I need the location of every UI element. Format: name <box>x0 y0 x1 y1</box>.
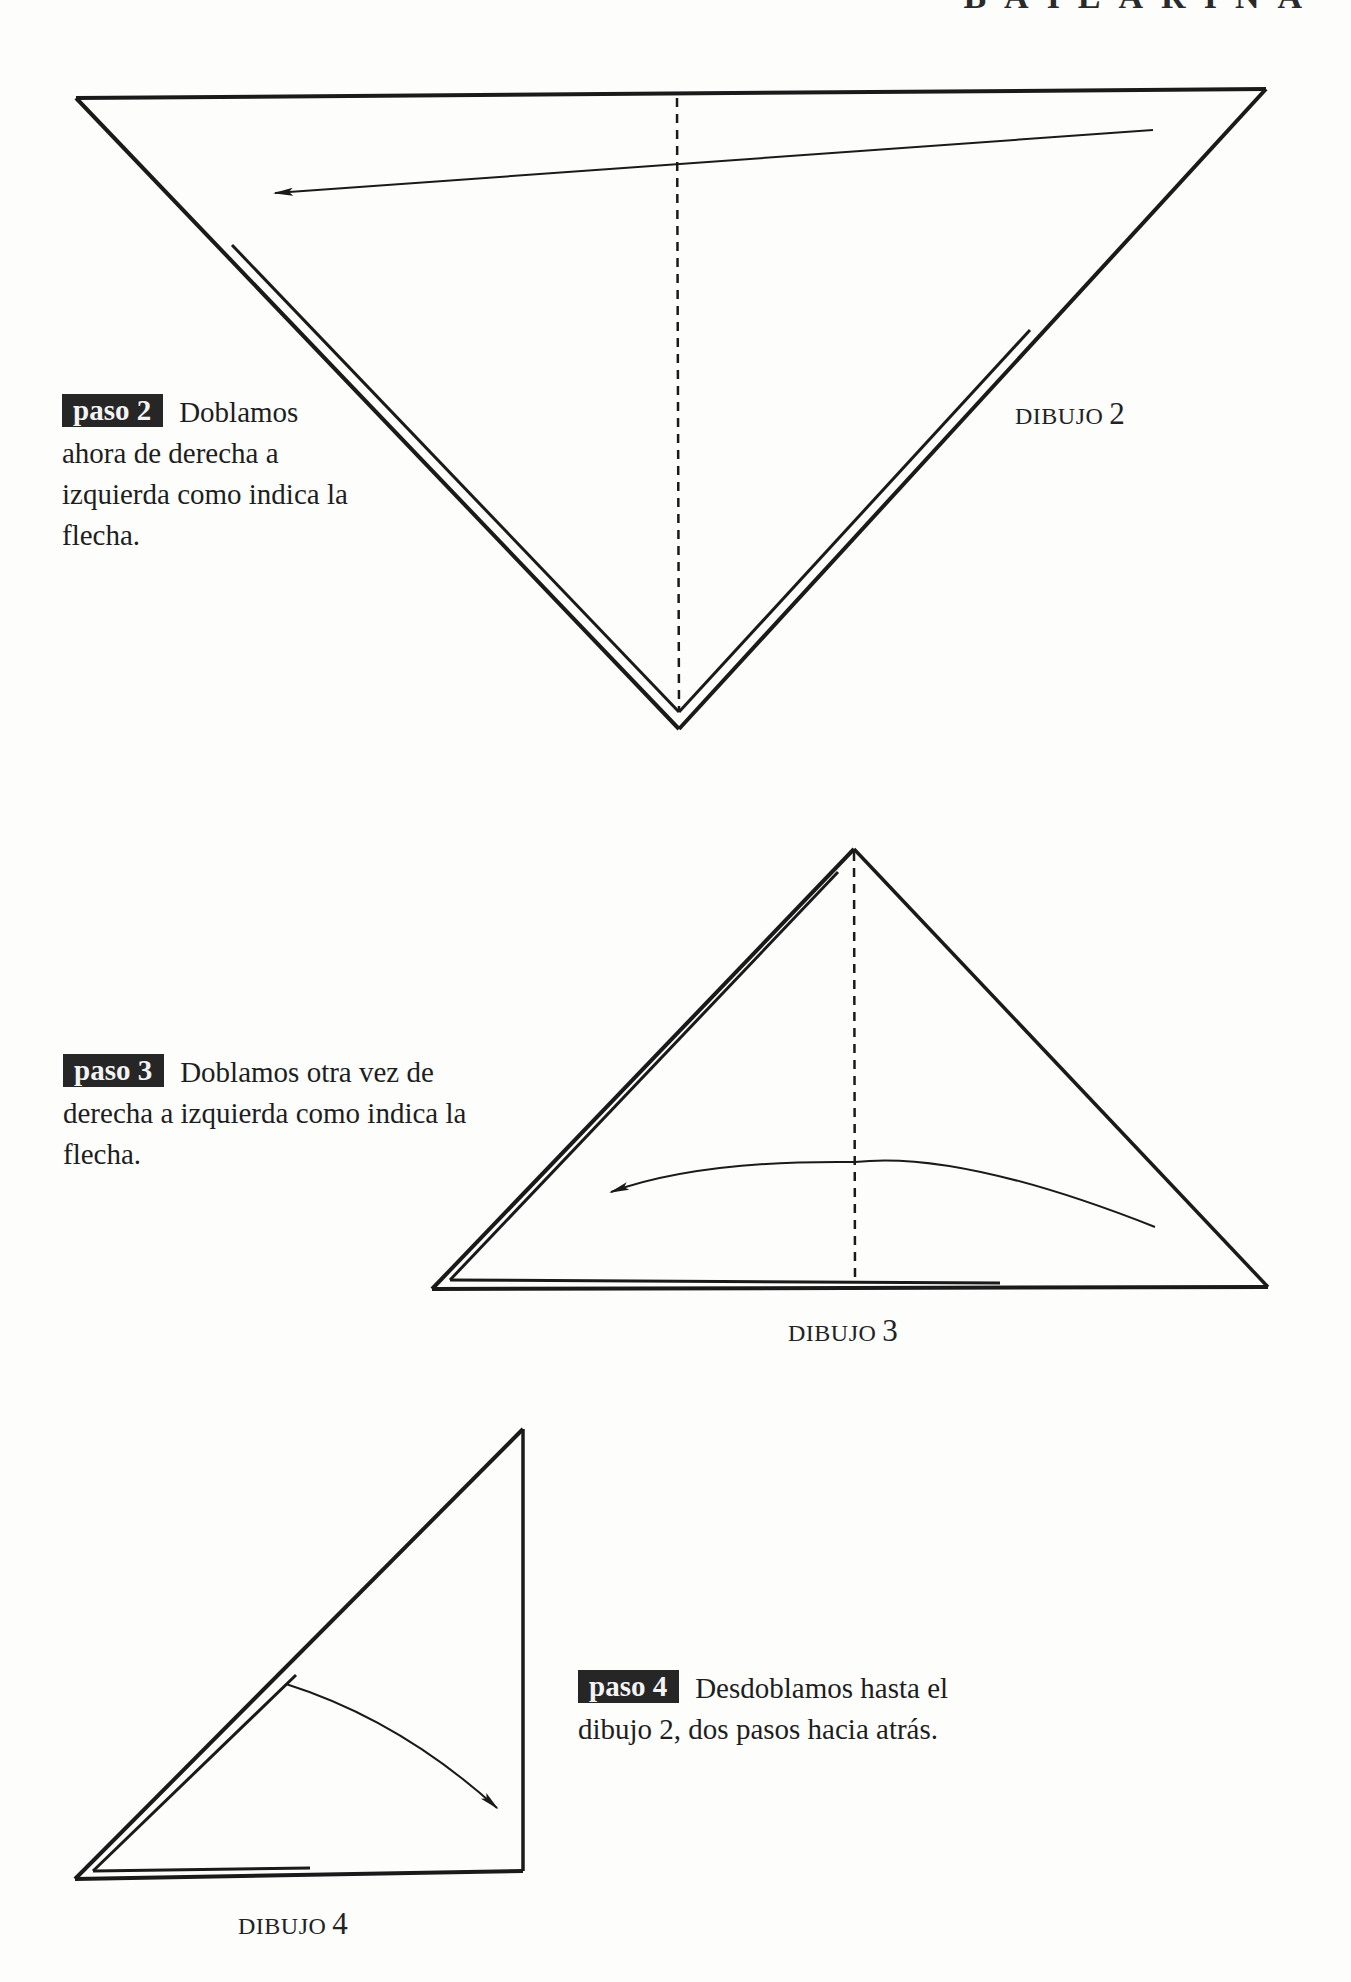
step-2-line-1: paso 2Doblamos <box>62 392 422 433</box>
crease-line <box>854 852 855 1277</box>
step-3-line-3: flecha. <box>63 1134 563 1175</box>
figure-4-drawing <box>75 1429 523 1879</box>
crease-line <box>677 98 679 712</box>
figure-3-label: DIBUJO3 <box>788 1313 898 1349</box>
step-4-instructions: paso 4Desdoblamos hasta el dibujo 2, dos… <box>578 1668 1078 1750</box>
curved-fold-arrow-icon <box>611 1160 1155 1227</box>
step-2-line-4: flecha. <box>62 515 422 556</box>
step-3-line-2: derecha a izquierda como indica la <box>63 1093 563 1134</box>
step-3-badge: paso 3 <box>63 1054 164 1087</box>
step-4-line-1: paso 4Desdoblamos hasta el <box>578 1668 1078 1709</box>
step-2-instructions: paso 2Doblamos ahora de derecha a izquie… <box>62 392 422 556</box>
figure-4-label: DIBUJO4 <box>238 1906 348 1942</box>
step-2-badge: paso 2 <box>62 394 163 427</box>
figure-2-label: DIBUJO2 <box>1015 396 1125 432</box>
step-4-line-2: dibujo 2, dos pasos hacia atrás. <box>578 1709 1078 1750</box>
fold-arrow-icon <box>275 130 1153 193</box>
step-2-line-2: ahora de derecha a <box>62 433 422 474</box>
unfold-arrow-icon <box>286 1684 497 1808</box>
step-4-badge: paso 4 <box>578 1670 679 1703</box>
step-3-instructions: paso 3Doblamos otra vez de derecha a izq… <box>63 1052 563 1175</box>
step-3-line-1: paso 3Doblamos otra vez de <box>63 1052 563 1093</box>
step-2-line-3: izquierda como indica la <box>62 474 422 515</box>
